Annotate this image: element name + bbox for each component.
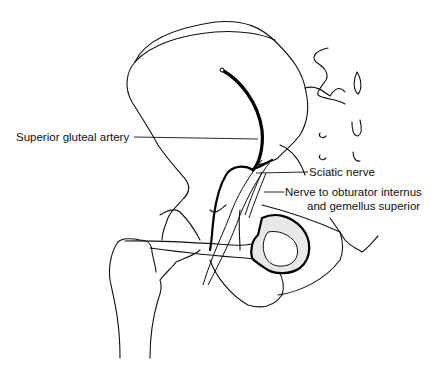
femur-shaft-medial — [150, 250, 200, 358]
sacrum-edge-lower — [305, 87, 345, 96]
artery-origin — [220, 68, 224, 72]
femur-shaft-lateral — [109, 242, 120, 358]
sacral-foramen-4 — [319, 133, 326, 138]
greater-sciatic-notch — [280, 145, 305, 175]
femur-head-top — [118, 239, 156, 272]
leader-superior-gluteal-artery — [134, 137, 258, 139]
anatomical-diagram: Superior gluteal artery Sciatic nerve Ne… — [0, 0, 440, 375]
iliac-crest-outline — [135, 21, 308, 165]
nerve-obturator-stub — [239, 210, 240, 250]
greater-trochanter — [162, 198, 184, 240]
sacral-foramen-5 — [319, 155, 326, 160]
ilium-lateral-border — [127, 62, 189, 198]
piriformis-band-upper — [125, 241, 262, 245]
coccyx-edge — [330, 218, 378, 252]
sciatic-nerve-left — [203, 160, 262, 285]
nerve-obturator-left — [245, 172, 262, 215]
label-superior-gluteal-artery: Superior gluteal artery — [16, 130, 129, 144]
label-sciatic-nerve: Sciatic nerve — [309, 165, 375, 179]
artery-branch-lateral — [210, 205, 226, 212]
sacral-foramen-2 — [352, 120, 361, 136]
label-nerve-obturator-internus: Nerve to obturator internus — [285, 185, 422, 199]
sacral-foramen-1 — [354, 72, 361, 94]
leader-sciatic-nerve — [256, 172, 308, 173]
iliac-crest-inner — [135, 31, 275, 62]
label-gemellus-superior: and gemellus superior — [307, 199, 420, 213]
superior-gluteal-artery-vessel — [222, 70, 262, 170]
sacral-foramen-3 — [353, 152, 360, 161]
